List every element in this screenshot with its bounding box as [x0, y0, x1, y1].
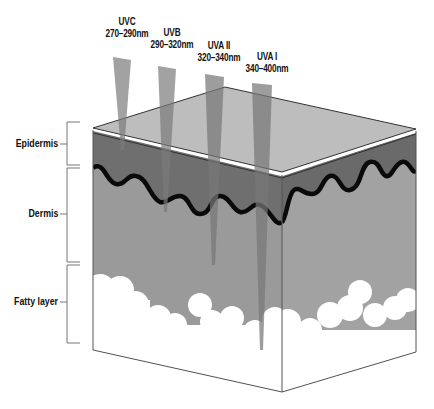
bracket-epidermis	[67, 122, 80, 165]
label-epidermis: Epidermis	[15, 137, 58, 149]
label-uva1-name: UVA I	[242, 51, 293, 63]
bracket-fatty	[67, 265, 80, 343]
label-uva2-range: 320–340nm	[194, 52, 245, 64]
label-uva1-range: 340–400nm	[242, 63, 293, 75]
label-uvc-range: 270–290nm	[102, 28, 151, 40]
label-uvc: UVC 270–290nm	[102, 16, 151, 40]
label-fatty-layer: Fatty layer	[14, 295, 58, 307]
label-dermis: Dermis	[28, 207, 58, 219]
label-uva2: UVA II 320–340nm	[194, 40, 245, 64]
label-uva1: UVA I 340–400nm	[242, 51, 293, 75]
label-uvb: UVB 290–320nm	[147, 27, 196, 51]
label-uvb-name: UVB	[147, 27, 196, 39]
layer-brackets	[60, 122, 80, 343]
bracket-dermis	[67, 168, 80, 262]
label-uvb-range: 290–320nm	[147, 39, 196, 51]
label-uva2-name: UVA II	[194, 40, 245, 52]
label-uvc-name: UVC	[102, 16, 151, 28]
